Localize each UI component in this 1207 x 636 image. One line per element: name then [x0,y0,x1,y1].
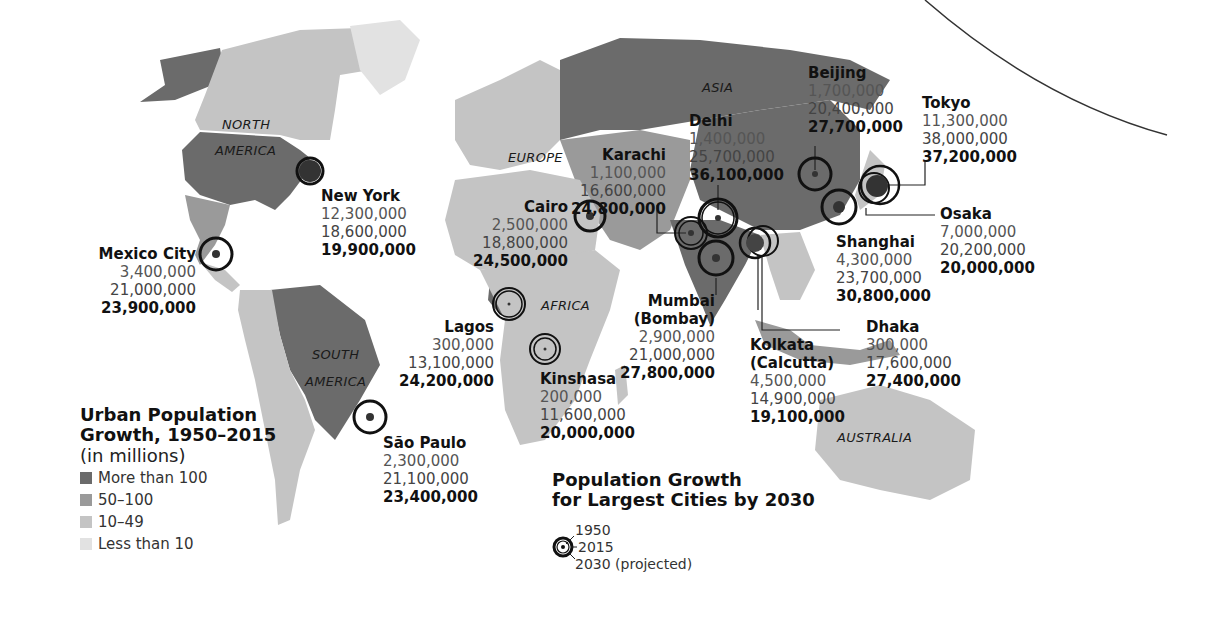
city-pop-2030: 27,700,000 [808,118,903,136]
city-pop-1950: 300,000 [370,336,494,354]
city-name: São Paulo [383,434,478,452]
legend-swatch-icon [80,472,92,484]
region-greenland [350,20,420,95]
legend-item-label: 50–100 [98,489,153,511]
city-name: Beijing [808,64,903,82]
city-pop-2015: 17,600,000 [866,354,961,372]
city-pop-1950: 300,000 [866,336,961,354]
city-pop-2015: 11,600,000 [540,406,635,424]
city-pop-1950: 200,000 [540,388,635,406]
continent-label-south-america: SOUTH [312,347,359,362]
city-name: Shanghai [836,233,931,251]
city-pop-2030: 19,900,000 [321,241,416,259]
continent-label-line: NORTH [222,117,270,132]
city-label-delhi: Delhi 1,400,000 25,700,000 36,100,000 [689,112,784,184]
city-pop-2030: 20,000,000 [540,424,635,442]
city-label-lagos: Lagos 300,000 13,100,000 24,200,000 [370,318,494,390]
legend-swatch-icon [80,494,92,506]
city-name: Karachi [540,146,666,164]
ring-legend-1950: 1950 [575,522,611,539]
city-name: New York [321,187,416,205]
city-pop-2030: 23,400,000 [383,488,478,506]
city-pop-2030: 24,800,000 [540,200,666,218]
city-pop-1950: 3,400,000 [78,263,196,281]
city-label-tokyo: Tokyo 11,300,000 38,000,000 37,200,000 [922,94,1017,166]
city-label-new-york: New York 12,300,000 18,600,000 19,900,00… [321,187,416,259]
continent-label-line: AMERICA [305,374,366,389]
city-label-beijing: Beijing 1,700,000 20,400,000 27,700,000 [808,64,903,136]
city-pop-2030: 36,100,000 [689,166,784,184]
continent-label-africa: AFRICA [541,298,590,313]
city-pop-2015: 14,900,000 [750,390,845,408]
city-pop-2030: 20,000,000 [940,259,1035,277]
city-name: Dhaka [866,318,961,336]
city-name: Mexico City [78,245,196,263]
city-pop-2030: 30,800,000 [836,287,931,305]
city-label-mumbai: Mumbai (Bombay) 2,900,000 21,000,000 27,… [615,292,715,382]
city-pop-2015: 16,600,000 [540,182,666,200]
city-label-karachi: Karachi 1,100,000 16,600,000 24,800,000 [540,146,666,218]
city-pop-1950: 7,000,000 [940,223,1035,241]
legend-swatch-icon [80,538,92,550]
city-pop-2030: 24,500,000 [440,252,568,270]
legend-swatch-icon [80,516,92,528]
city-label-shanghai: Shanghai 4,300,000 23,700,000 30,800,000 [836,233,931,305]
city-name: Tokyo [922,94,1017,112]
city-name-alt: (Bombay) [615,310,715,328]
city-pop-2030: 27,800,000 [615,364,715,382]
continent-label-asia: ASIA [702,80,733,95]
continent-label-north-america-2: AMERICA [215,143,276,158]
legend-item-less-than-10: Less than 10 [80,533,276,555]
legend-item-50-100: 50–100 [80,489,276,511]
city-label-mexico-city: Mexico City 3,400,000 21,000,000 23,900,… [78,245,196,317]
legend-item-10-49: 10–49 [80,511,276,533]
continent-label-south-america-2: AMERICA [305,374,366,389]
city-pop-2015: 21,100,000 [383,470,478,488]
region-southeast-asia [760,232,815,300]
city-pop-2015: 18,600,000 [321,223,416,241]
city-name-alt: (Calcutta) [750,354,845,372]
city-name: Lagos [370,318,494,336]
legend-title-line2: Growth, 1950–2015 [80,425,276,445]
legend-item-label: More than 100 [98,467,207,489]
city-pop-2030: 24,200,000 [370,372,494,390]
city-label-kolkata: Kolkata (Calcutta) 4,500,000 14,900,000 … [750,336,845,426]
city-pop-2015: 25,700,000 [689,148,784,166]
city-label-sao-paulo: São Paulo 2,300,000 21,100,000 23,400,00… [383,434,478,506]
city-pop-2015: 21,000,000 [78,281,196,299]
ring-legend: Population Growth for Largest Cities by … [552,470,815,510]
city-pop-1950: 12,300,000 [321,205,416,223]
city-pop-2015: 23,700,000 [836,269,931,287]
legend-subtitle: (in millions) [80,445,276,467]
ring-legend-title-line1: Population Growth [552,470,815,490]
city-pop-1950: 2,300,000 [383,452,478,470]
continent-label-australia: AUSTRALIA [837,430,912,445]
city-pop-1950: 2,500,000 [440,216,568,234]
continent-label-line: SOUTH [312,347,359,362]
city-pop-2015: 18,800,000 [440,234,568,252]
ring-legend-icon [554,536,577,559]
legend-item-more-than-100: More than 100 [80,467,276,489]
city-pop-2030: 37,200,000 [922,148,1017,166]
city-pop-2015: 21,000,000 [615,346,715,364]
city-pop-2030: 23,900,000 [78,299,196,317]
city-pop-2015: 20,200,000 [940,241,1035,259]
urban-population-legend: Urban Population Growth, 1950–2015 (in m… [80,405,276,555]
city-pop-1950: 1,700,000 [808,82,903,100]
continent-label-north-america: NORTH [222,117,270,132]
city-pop-2015: 38,000,000 [922,130,1017,148]
city-name: Kolkata [750,336,845,354]
city-name: Delhi [689,112,784,130]
city-pop-1950: 4,500,000 [750,372,845,390]
legend-item-label: Less than 10 [98,533,194,555]
legend-title-line1: Urban Population [80,405,276,425]
city-pop-2030: 19,100,000 [750,408,845,426]
continent-label-line: AMERICA [215,143,276,158]
city-name: Osaka [940,205,1035,223]
city-pop-1950: 1,100,000 [540,164,666,182]
ring-legend-2015: 2015 [578,539,614,556]
city-pop-2015: 13,100,000 [370,354,494,372]
city-pop-2015: 20,400,000 [808,100,903,118]
city-pop-1950: 4,300,000 [836,251,931,269]
legend-item-label: 10–49 [98,511,144,533]
